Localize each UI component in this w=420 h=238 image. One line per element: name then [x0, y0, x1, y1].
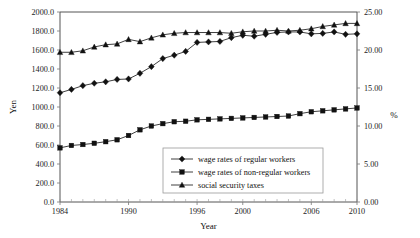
- marker-diamond: [354, 31, 360, 37]
- marker-square: [183, 119, 188, 124]
- y-ticklabel-left: 1600.0: [31, 46, 54, 55]
- marker-diamond: [91, 80, 97, 86]
- y-ticklabel-left: 1400.0: [31, 65, 54, 74]
- y-ticklabel-right: 20.00: [364, 46, 382, 55]
- y-ticklabel-right: 10.00: [364, 122, 382, 131]
- marker-square: [309, 109, 314, 114]
- legend-label: social security taxes: [198, 181, 264, 190]
- marker-square: [286, 114, 291, 119]
- marker-square: [195, 118, 200, 123]
- marker-square: [332, 108, 337, 113]
- legend: wage rates of regular workerswage rates …: [163, 148, 323, 193]
- y-ticklabel-left: 2000.0: [31, 8, 54, 17]
- marker-square: [320, 109, 325, 114]
- x-ticklabel: 1990: [120, 207, 136, 216]
- y-axis-title-right: %: [390, 110, 398, 120]
- marker-diamond: [69, 86, 75, 92]
- chart-container: 0.0200.0400.0600.0800.01000.01200.01400.…: [0, 0, 420, 238]
- x-ticklabel: 1984: [52, 207, 68, 216]
- x-ticklabel: 2000: [235, 207, 251, 216]
- marker-diamond: [149, 64, 155, 70]
- marker-square: [149, 124, 154, 129]
- x-ticklabel: 1996: [189, 207, 205, 216]
- marker-square: [240, 116, 245, 121]
- marker-square: [218, 117, 223, 122]
- marker-diamond: [206, 39, 212, 45]
- y-ticklabel-left: 1800.0: [31, 27, 54, 36]
- x-ticklabel: 2006: [303, 207, 319, 216]
- marker-square: [229, 116, 234, 121]
- marker-triangle: [126, 36, 132, 41]
- y-ticklabel-right: 0.00: [364, 198, 378, 207]
- marker-diamond: [308, 31, 314, 37]
- marker-square: [92, 141, 97, 146]
- marker-diamond: [80, 83, 86, 89]
- x-ticklabel: 2010: [349, 207, 365, 216]
- y-axis-title-left: Yen: [8, 99, 18, 114]
- y-ticklabel-left: 600.0: [36, 141, 54, 150]
- y-ticklabel-left: 400.0: [36, 160, 54, 169]
- marker-diamond: [137, 70, 143, 76]
- marker-square: [81, 142, 86, 147]
- y-ticklabel-right: 25.00: [364, 8, 382, 17]
- series-1: [57, 29, 360, 96]
- marker-square: [355, 106, 360, 111]
- marker-square: [343, 107, 348, 112]
- x-axis-title: Year: [200, 221, 217, 231]
- marker-square: [180, 170, 185, 175]
- y-ticklabel-right: 15.00: [364, 84, 382, 93]
- y-ticklabel-left: 1000.0: [31, 103, 54, 112]
- marker-square: [115, 137, 120, 142]
- marker-square: [263, 115, 268, 120]
- marker-diamond: [320, 30, 326, 36]
- marker-square: [58, 146, 63, 151]
- marker-square: [103, 139, 108, 144]
- marker-diamond: [160, 55, 166, 61]
- y-ticklabel-left: 0.0: [44, 198, 54, 207]
- marker-square: [172, 119, 177, 124]
- series-2: [58, 106, 360, 151]
- marker-diamond: [103, 79, 109, 85]
- series-3: [57, 21, 360, 55]
- marker-diamond: [251, 33, 257, 39]
- marker-square: [69, 143, 74, 148]
- y-ticklabel-left: 1200.0: [31, 84, 54, 93]
- marker-diamond: [343, 31, 349, 37]
- marker-square: [252, 115, 257, 120]
- line-chart: 0.0200.0400.0600.0800.01000.01200.01400.…: [0, 0, 420, 238]
- y-ticklabel-right: 5.00: [364, 160, 378, 169]
- marker-diamond: [183, 48, 189, 54]
- marker-square: [275, 114, 280, 119]
- marker-square: [126, 133, 131, 138]
- marker-diamond: [126, 76, 132, 82]
- marker-diamond: [194, 39, 200, 45]
- y-ticklabel-left: 200.0: [36, 179, 54, 188]
- legend-label: wage rates of regular workers: [198, 155, 295, 164]
- y-ticklabel-left: 800.0: [36, 122, 54, 131]
- marker-square: [138, 128, 143, 133]
- marker-diamond: [217, 38, 223, 44]
- marker-diamond: [57, 90, 63, 96]
- marker-square: [161, 121, 166, 126]
- marker-square: [298, 111, 303, 116]
- marker-diamond: [114, 76, 120, 82]
- marker-diamond: [171, 52, 177, 58]
- legend-label: wage rates of non-regular workers: [198, 168, 310, 177]
- marker-diamond: [331, 29, 337, 35]
- marker-square: [206, 117, 211, 122]
